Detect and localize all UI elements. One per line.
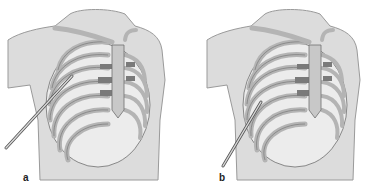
figure-panel-a: a: [0, 0, 183, 193]
figure-panel-b: b: [183, 0, 366, 193]
panel-label-a: a: [23, 172, 29, 183]
panel-label-b: b: [219, 172, 225, 183]
rib-cage-illustration-b: [183, 0, 366, 193]
rib-cage-illustration-a: [0, 0, 183, 193]
